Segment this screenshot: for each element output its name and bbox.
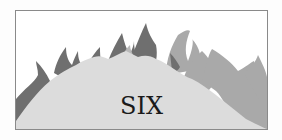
- illustration-label: SIX: [16, 92, 267, 120]
- flame-illustration-frame: SIX: [15, 10, 268, 130]
